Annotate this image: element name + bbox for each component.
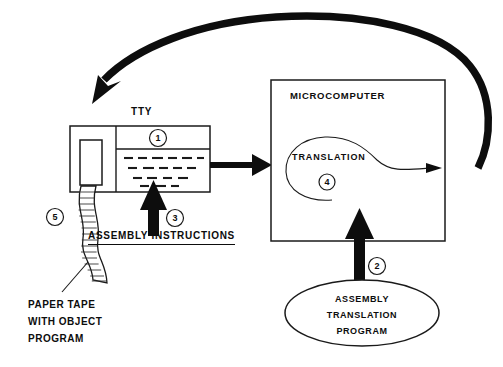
- paper-tape-leader-line: [62, 262, 88, 292]
- assembly-translation-program-caption: ASSEMBLY TRANSLATION PROGRAM: [322, 291, 402, 339]
- step-marker-2-text: 2: [370, 261, 384, 271]
- step-marker-1-text: 1: [151, 133, 165, 143]
- program-caption-line-2: TRANSLATION: [322, 307, 402, 323]
- step-marker-5-text: 5: [48, 212, 62, 222]
- program-caption-line-1: ASSEMBLY: [322, 291, 402, 307]
- tty-unit-group: [70, 126, 210, 192]
- tty-to-micro-arrow-shaft: [210, 162, 254, 168]
- tty-tape-reader-slot: [80, 140, 102, 185]
- step-marker-4-text: 4: [320, 177, 334, 187]
- program-caption-line-3: PROGRAM: [322, 323, 402, 339]
- paper-tape-caption-line-1: PAPER TAPE: [28, 296, 102, 313]
- microcomputer-label: MICROCOMPUTER: [290, 90, 385, 101]
- diagram-canvas: TTY MICROCOMPUTER TRANSLATION ASSEMBLY I…: [0, 0, 503, 367]
- paper-tape-caption-line-2: WITH OBJECT: [28, 313, 102, 330]
- paper-tape-caption: PAPER TAPE WITH OBJECT PROGRAM: [28, 296, 102, 347]
- tty-label: TTY: [131, 106, 152, 117]
- tty-to-microcomputer-arrow: [210, 154, 272, 176]
- paper-tape-caption-line-3: PROGRAM: [28, 330, 102, 347]
- assembly-instructions-label: ASSEMBLY INSTRUCTIONS: [88, 230, 235, 245]
- translation-program-arrow-shaft: [354, 232, 365, 284]
- translation-label: TRANSLATION: [292, 152, 366, 162]
- step-marker-3-text: 3: [168, 213, 182, 223]
- tty-to-micro-arrow-head: [252, 154, 272, 176]
